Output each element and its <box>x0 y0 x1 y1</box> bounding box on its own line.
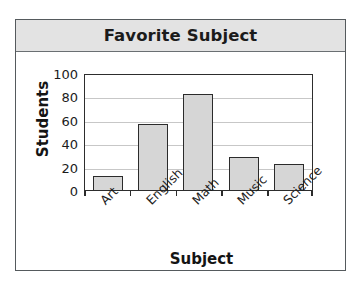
y-axis-tick-label: 80 <box>61 90 78 105</box>
x-axis-tick-labels: ArtEnglishMathMusicScience <box>84 197 313 255</box>
plot-area <box>84 74 313 191</box>
y-axis-tick-label: 0 <box>70 184 78 199</box>
x-axis-tick-mark <box>311 191 313 196</box>
chart-title-band: Favorite Subject <box>16 20 345 52</box>
x-axis-tick-mark <box>267 191 269 196</box>
x-axis-tick-mark <box>84 191 86 196</box>
x-axis-title: Subject <box>66 250 337 268</box>
y-axis-tick-label: 40 <box>61 137 78 152</box>
bar-series <box>85 75 312 190</box>
y-axis-tick-label: 20 <box>61 160 78 175</box>
y-axis-tick-labels: 020406080100 <box>46 74 82 191</box>
x-axis-tick-mark <box>221 191 223 196</box>
y-axis-tick-label: 60 <box>61 113 78 128</box>
y-axis-tick-label: 100 <box>53 67 78 82</box>
chart-figure: Favorite Subject Students 020406080100 A… <box>15 19 346 271</box>
x-axis-tick-mark <box>176 191 178 196</box>
page-title: Favorite Subject <box>104 26 258 45</box>
x-axis-tick-mark <box>130 191 132 196</box>
chart-plot-region: Students 020406080100 ArtEnglishMathMusi… <box>16 52 345 270</box>
